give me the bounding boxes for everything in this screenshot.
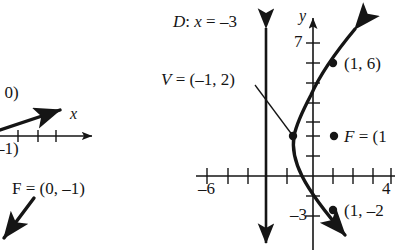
right-y-axis: [306, 18, 320, 250]
label-point-1-6: (1, 6): [344, 55, 381, 72]
right-y-axis-label: y: [299, 8, 306, 24]
y-tick-label-neg3: –3: [290, 206, 307, 223]
point-marker-focus: [330, 132, 338, 140]
x-tick-label-4: 4: [382, 180, 391, 197]
point-marker-upper: [329, 59, 337, 67]
x-tick-label-neg6: –6: [198, 180, 215, 197]
directrix-label: D: x = –3: [173, 13, 237, 30]
y-tick-label-7: 7: [294, 33, 303, 50]
point-marker-lower: [329, 206, 337, 214]
right-x-axis: [196, 168, 395, 184]
vertex-leader-line: [255, 85, 293, 136]
point-marker-vertex: [289, 132, 297, 140]
vertex-label: V = (–1, 2): [161, 71, 235, 88]
focus-label: F = (1: [344, 128, 387, 145]
label-point-1-neg2: (1, –2: [344, 202, 384, 219]
right-graph-drawing: [0, 0, 395, 251]
figure-canvas: , 0) x –1) F = (0, –1): [0, 0, 395, 251]
